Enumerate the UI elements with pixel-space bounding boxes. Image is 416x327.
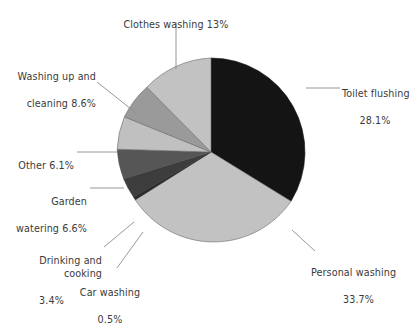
slice-label-toilet-flushing-name: Toilet flushing bbox=[342, 87, 416, 101]
slice-label-personal-washing-name: Personal washing bbox=[311, 266, 416, 280]
slice-label-car-washing-value: 0.5% bbox=[52, 313, 168, 327]
pie-slices bbox=[117, 58, 305, 242]
slice-label-washing-up-and-cleaning: Washing up and cleaning 8.6% bbox=[2, 56, 96, 124]
leader-line-personal-washing bbox=[292, 230, 315, 251]
leader-line-car-washing bbox=[117, 232, 143, 268]
slice-label-car-washing-name: Car washing bbox=[52, 286, 168, 300]
slice-label-toilet-flushing-value: 28.1% bbox=[342, 114, 408, 128]
slice-label-washing-up-line1: Washing up and bbox=[2, 70, 96, 84]
slice-label-garden-watering-line1: Garden bbox=[2, 195, 87, 209]
slice-label-garden-watering-line2: watering 6.6% bbox=[2, 222, 87, 236]
slice-label-toilet-flushing: Toilet flushing 28.1% bbox=[342, 73, 416, 141]
leader-line-washing-up bbox=[97, 82, 136, 113]
slice-label-other-text: Other 6.1% bbox=[18, 160, 74, 171]
slice-label-personal-washing: Personal washing 33.7% bbox=[311, 252, 416, 320]
slice-label-car-washing: Car washing 0.5% bbox=[52, 272, 168, 327]
slice-label-personal-washing-value: 33.7% bbox=[311, 293, 406, 307]
slice-label-garden-watering: Garden watering 6.6% bbox=[2, 181, 87, 249]
slice-label-clothes-washing: Clothes washing 13% bbox=[96, 4, 256, 31]
slice-label-clothes-washing-text: Clothes washing 13% bbox=[124, 19, 229, 30]
leader-line-drinking-and-cooking bbox=[104, 222, 134, 247]
slice-label-washing-up-line2: cleaning 8.6% bbox=[2, 97, 96, 111]
slice-label-other: Other 6.1% bbox=[2, 145, 74, 172]
